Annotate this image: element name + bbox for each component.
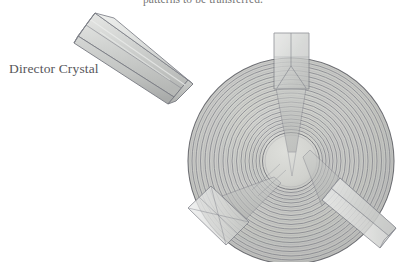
crystal-top-body	[274, 33, 309, 89]
illustration-artwork	[0, 0, 406, 262]
label-director-crystal: Director Crystal	[9, 61, 99, 77]
crystal-director	[74, 13, 193, 104]
figure-root: patterns to be transferred.	[0, 0, 406, 262]
